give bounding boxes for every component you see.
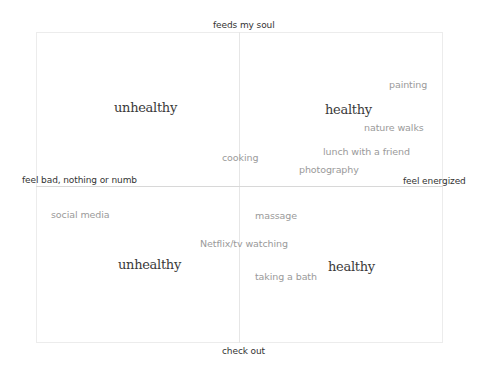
item-photography: photography <box>299 164 359 175</box>
item-cooking: cooking <box>222 152 258 163</box>
item-lunch-with-a-friend: lunch with a friend <box>323 146 410 157</box>
quadrant-label-bottom-right: healthy <box>328 259 375 274</box>
axis-label-left: feel bad, nothing or numb <box>22 175 137 185</box>
quadrant-label-top-right: healthy <box>325 102 372 117</box>
item-nature-walks: nature walks <box>364 122 424 133</box>
horizontal-axis <box>36 186 443 187</box>
vertical-axis <box>239 32 240 343</box>
quadrant-label-top-left: unhealthy <box>114 100 177 115</box>
item-massage: massage <box>255 210 297 221</box>
axis-label-bottom: check out <box>222 346 265 356</box>
item-taking-a-bath: taking a bath <box>255 271 317 282</box>
axis-label-right: feel energized <box>403 176 466 186</box>
item-painting: painting <box>389 79 427 90</box>
item-social-media: social media <box>51 209 110 220</box>
item-netflix-tv-watching: Netflix/tv watching <box>200 238 288 249</box>
quadrant-label-bottom-left: unhealthy <box>118 257 181 272</box>
axis-label-top: feeds my soul <box>213 20 275 30</box>
